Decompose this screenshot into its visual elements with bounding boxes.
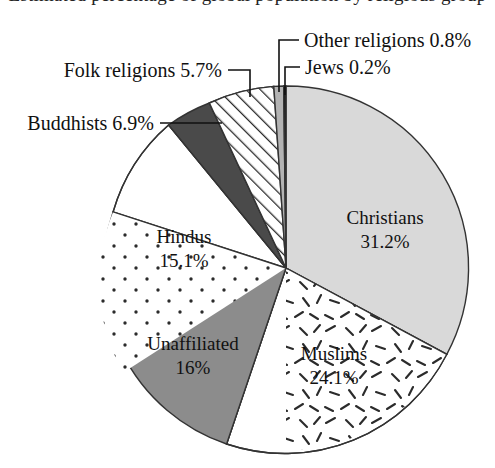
inside-label-christians-name: Christians xyxy=(346,207,423,228)
pie-slices xyxy=(100,80,470,465)
inside-label-hindus-name: Hindus xyxy=(157,226,212,247)
cropped-title-fragment: Estimated percentage of global populatio… xyxy=(0,0,495,10)
pie-chart-figure: Estimated percentage of global populatio… xyxy=(0,0,495,468)
inside-label-muslims-value: 24.1% xyxy=(309,367,358,388)
callout-label-other-religions: Other religions 0.8% xyxy=(304,29,471,52)
callout-label-buddhists: Buddhists 6.9% xyxy=(27,112,154,134)
inside-label-unaffiliated-value: 16% xyxy=(176,357,211,378)
inside-label-unaffiliated-name: Unaffiliated xyxy=(147,333,239,354)
callout-label-jews: Jews 0.2% xyxy=(305,56,391,78)
callout-label-folk-religions: Folk religions 5.7% xyxy=(64,59,222,82)
inside-label-hindus-value: 15.1% xyxy=(159,250,208,271)
leader-line-other-religions xyxy=(279,40,299,92)
inside-label-muslims-name: Muslims xyxy=(301,343,368,364)
chart-title: Estimated percentage of global populatio… xyxy=(0,0,495,6)
pie-chart-svg: Other religions 0.8% Jews 0.2% Folk reli… xyxy=(0,0,495,468)
inside-label-christians-value: 31.2% xyxy=(360,231,409,252)
